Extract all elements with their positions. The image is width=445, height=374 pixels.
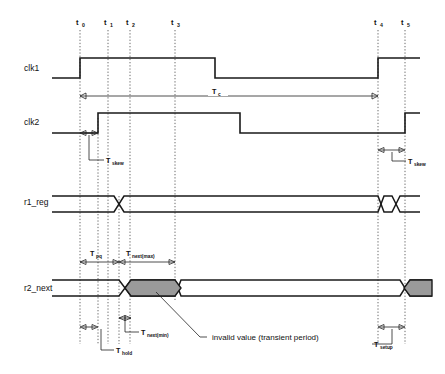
invalid-region-shade: [125, 280, 181, 296]
timing-diagram-root: t 0 t 1 t 2 t 3 t 4 t 5 clk1 T c: [0, 0, 445, 374]
signal-label-r1_reg: r1_reg: [24, 197, 49, 207]
invalid-region-shade-right: [404, 280, 432, 296]
timing-diagram-canvas: t 0 t 1 t 2 t 3 t 4 t 5 clk1 T c: [0, 0, 445, 374]
measurement-Tskew-right-sub: skew: [414, 162, 426, 167]
measurement-Tc-base: T: [212, 87, 217, 96]
time-marker-t1-sub: 1: [110, 22, 113, 28]
signal-label-clk2: clk2: [24, 117, 39, 127]
time-marker-t0-sub: 0: [82, 22, 85, 28]
measurement-Thold-sub: hold: [122, 351, 132, 356]
measurement-Tnext-min-sub: next(min): [147, 333, 169, 338]
measurement-Tnext-max-base: T: [126, 249, 131, 258]
signal-label-r2_next: r2_next: [24, 283, 53, 293]
measurement-Tpq-sub: pq: [96, 254, 102, 259]
measurement-Tpq-base: T: [90, 249, 95, 258]
measurement-Tsetup-base: T: [374, 340, 379, 349]
measurement-Tskew-left-sub: skew: [112, 161, 124, 166]
measurement-Thold-base: T: [116, 346, 121, 355]
time-marker-t2-sub: 2: [132, 22, 135, 28]
measurement-Tskew-left-base: T: [106, 156, 111, 165]
signal-label-clk1: clk1: [24, 63, 39, 73]
measurement-Tnext-min-base: T: [141, 328, 146, 337]
annotation-invalid-value-text: invalid value (transient period): [212, 333, 319, 342]
time-marker-t3-sub: 3: [177, 22, 180, 28]
time-marker-t4-sub: 4: [380, 22, 383, 28]
time-marker-t5-sub: 5: [407, 22, 410, 28]
measurement-Tnext-max-sub: next(max): [132, 254, 155, 259]
measurement-Tc-sub: c: [218, 92, 221, 97]
measurement-Tskew-right-base: T: [408, 157, 413, 166]
measurement-Tsetup-sub: setup: [380, 345, 393, 350]
